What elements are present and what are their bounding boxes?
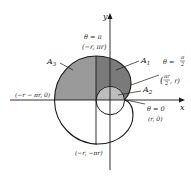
theta-zero-label: θ = 0 [147,105,165,113]
half-pi-denominator: 2 [180,61,184,67]
point-bottom-label: (−r, −πr) [75,149,103,156]
label-a3: A3 [46,57,57,67]
y-axis-label: y [102,12,108,21]
leader-half-pi [131,75,159,85]
y-axis-arrow [108,13,113,19]
theta-half-pi-label: θ = [163,58,174,66]
half-pi-numerator: π [180,54,185,60]
point-half-pi-close: , r) [170,77,180,85]
x-axis-arrow [179,98,185,103]
spiral-diagram: y x A3 A1 A2 θ = π (−r, πr) θ = π 2 ( πr… [0,0,191,176]
label-a1: A1 [140,56,150,66]
theta-pi-label: θ = π [84,33,102,41]
point-zero-label: (r, 0) [148,115,163,122]
point-pi-label: (−r, πr) [82,43,107,51]
point-left-label: (−r − πr, 0) [15,91,51,98]
point-half-pi-den: 2 [164,80,168,86]
x-axis-label: x [180,103,185,112]
region-a3 [55,56,97,100]
label-a2: A2 [142,85,153,95]
